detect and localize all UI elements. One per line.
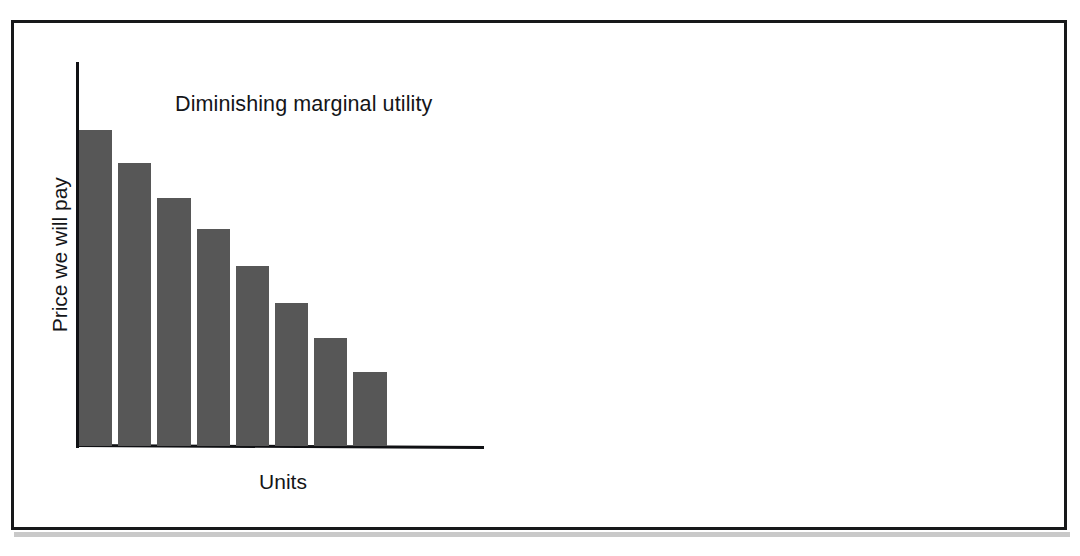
left-x-axis-label: Units <box>183 470 383 494</box>
left-y-axis-label: Price we will pay <box>48 165 72 345</box>
left-chart-title: Diminishing marginal utility <box>175 92 432 116</box>
bar-6 <box>275 303 308 446</box>
bar-7 <box>314 338 347 447</box>
economics-figure: Diminishing marginal utility Price we wi… <box>0 0 1080 556</box>
bar-4 <box>197 229 230 446</box>
bar-2 <box>118 163 151 446</box>
bar-1 <box>79 130 112 446</box>
bar-series <box>79 60 399 446</box>
bar-8 <box>353 372 386 446</box>
bar-3 <box>157 198 190 446</box>
panel-demand-curve: Demand curve Price Quantity (per period … <box>540 0 1080 556</box>
bar-5 <box>236 266 269 446</box>
panel-diminishing-marginal-utility: Diminishing marginal utility Price we wi… <box>0 0 540 556</box>
